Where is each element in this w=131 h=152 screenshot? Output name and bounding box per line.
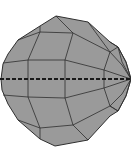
sphere-silhouette xyxy=(1,16,131,146)
sphere-mesh-icon xyxy=(0,0,131,152)
sphere-render xyxy=(0,0,131,152)
